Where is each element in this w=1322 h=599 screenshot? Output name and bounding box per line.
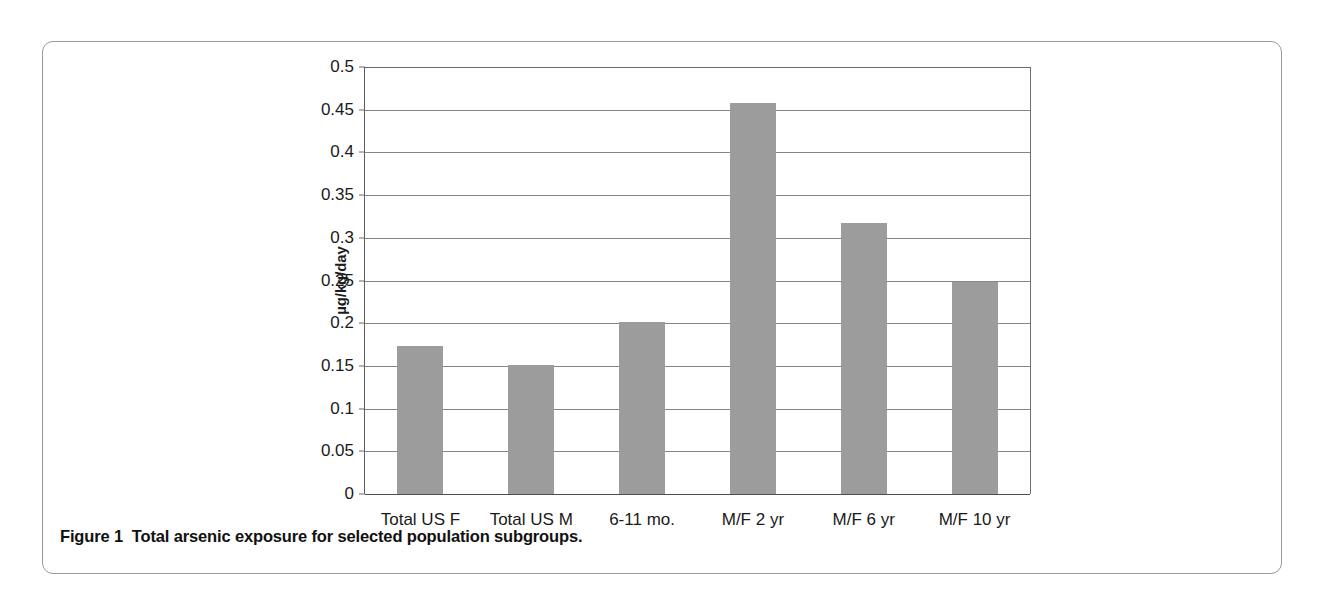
y-tick-label: 0.35 <box>321 185 354 205</box>
bar-chart: µg/kg/day 0.50.450.40.350.30.250.20.150.… <box>43 42 1283 512</box>
y-tick-label: 0.3 <box>330 228 354 248</box>
plot-area: 0.50.450.40.350.30.250.20.150.10.050 Tot… <box>364 67 1031 494</box>
x-label-slot: M/F 10 yr <box>919 67 1030 494</box>
x-label-slot: M/F 2 yr <box>698 67 809 494</box>
gridline <box>365 494 1030 495</box>
y-tick-label: 0.2 <box>330 313 354 333</box>
figure-caption-label: Figure 1 <box>60 527 123 545</box>
y-tick-label: 0.4 <box>330 142 354 162</box>
x-label-slot: 6-11 mo. <box>587 67 698 494</box>
y-tick-label: 0.15 <box>321 356 354 376</box>
y-tick-label: 0.05 <box>321 441 354 461</box>
figure-caption: Figure 1 Total arsenic exposure for sele… <box>60 527 1260 546</box>
y-tick-label: 0.5 <box>330 57 354 77</box>
y-tick-label: 0.1 <box>330 399 354 419</box>
x-label-slot: M/F 6 yr <box>808 67 919 494</box>
y-tick-label: 0.45 <box>321 100 354 120</box>
y-tick-label: 0.25 <box>321 271 354 291</box>
x-label-slot: Total US F <box>365 67 476 494</box>
y-tick-label: 0 <box>345 484 354 504</box>
figure-panel: µg/kg/day 0.50.450.40.350.30.250.20.150.… <box>42 41 1282 574</box>
figure-caption-text: Total arsenic exposure for selected popu… <box>132 527 582 545</box>
x-label-slot: Total US M <box>476 67 587 494</box>
